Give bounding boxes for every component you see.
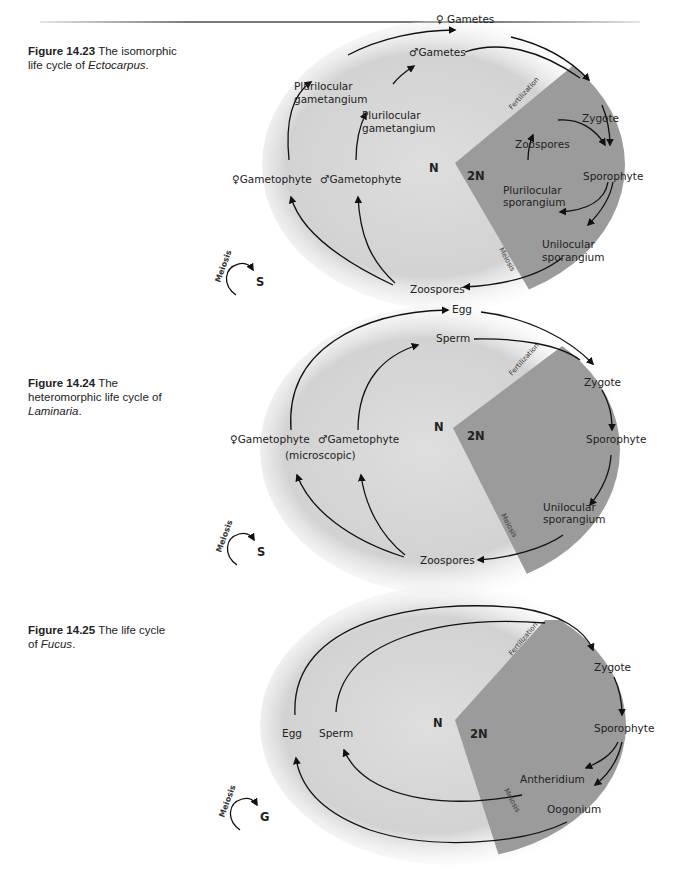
label-female-gametophyte: ♀Gametophyte [230, 433, 310, 445]
label-haploid-n: N [433, 716, 443, 730]
laminaria-life-cycle-diagram: Egg Sperm ♀Gametophyte ♂Gametophyte (mic… [0, 290, 680, 590]
meiosis-sporic-icon: Meiosis S [214, 519, 265, 565]
label-female-gametophyte: ♀Gametophyte [232, 173, 312, 185]
label-zoospores-inner: Zoospores [515, 138, 570, 150]
label-sporophyte: Sporophyte [583, 170, 643, 182]
label-sporophyte: Sporophyte [586, 433, 646, 445]
label-oogonium: Oogonium [547, 803, 601, 815]
label-egg: Egg [282, 727, 302, 739]
label-microscopic: (microscopic) [285, 449, 356, 461]
legend-letter: S [256, 275, 264, 289]
legend-letter: G [260, 810, 269, 824]
ectocarpus-life-cycle-diagram: ♀ Gametes ♂Gametes Plurilocular gametang… [0, 0, 680, 300]
meiosis-gametic-icon: Meiosis G [217, 784, 269, 830]
label-diploid-2n: 2N [470, 727, 488, 741]
legend-meiosis-word: Meiosis [217, 784, 237, 819]
label-male-gametes: ♂Gametes [409, 46, 466, 58]
label-plurilocular-sporangium: Plurilocular [503, 184, 562, 196]
label-unilocular-sporangium: sporangium [542, 251, 604, 263]
legend-meiosis-word: Meiosis [213, 249, 233, 284]
label-haploid-n: N [434, 420, 444, 434]
label-male-gametophyte: ♂Gametophyte [320, 173, 401, 185]
label-plurilocular-sporangium: sporangium [503, 196, 565, 208]
label-egg: Egg [452, 303, 472, 315]
label-plurilocular-gametangium: gametangium [294, 93, 367, 105]
label-antheridium: Antheridium [520, 773, 585, 785]
label-unilocular-sporangium: sporangium [543, 513, 605, 525]
label-zygote: Zygote [594, 661, 631, 673]
label-unilocular-sporangium: Unilocular [543, 501, 596, 513]
label-sperm: Sperm [436, 332, 470, 344]
label-sperm: Sperm [319, 727, 353, 739]
label-diploid-2n: 2N [467, 169, 485, 183]
label-zygote: Zygote [584, 376, 621, 388]
label-zygote: Zygote [582, 112, 619, 124]
label-plurilocular-gametangium: Plurilocular [294, 80, 353, 92]
label-female-gametes: ♀ Gametes [436, 13, 494, 25]
label-male-gametophyte: ♂Gametophyte [318, 433, 399, 445]
label-haploid-n: N [429, 161, 439, 175]
fucus-life-cycle-diagram: Egg Sperm N 2N Zygote Sporophyte Antheri… [0, 590, 680, 890]
label-plurilocular-gametangium: gametangium [362, 122, 435, 134]
label-zoospores: Zoospores [420, 554, 475, 566]
legend-letter: S [257, 545, 265, 559]
meiosis-sporic-icon: Meiosis S [213, 249, 264, 295]
legend-meiosis-word: Meiosis [214, 519, 234, 554]
label-sporophyte: Sporophyte [594, 722, 654, 734]
label-unilocular-sporangium: Unilocular [542, 238, 595, 250]
label-plurilocular-gametangium: Plurilocular [362, 109, 421, 121]
label-diploid-2n: 2N [467, 429, 485, 443]
